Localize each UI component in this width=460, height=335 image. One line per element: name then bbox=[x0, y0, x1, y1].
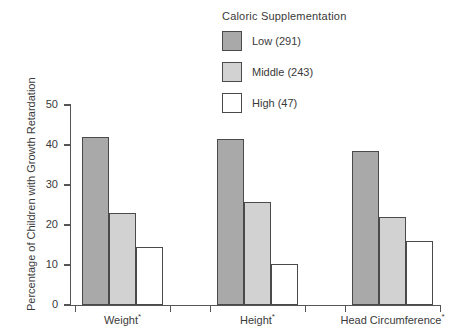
bar-chart: Percentage of Children with Growth Retar… bbox=[0, 0, 460, 335]
bar bbox=[379, 217, 406, 305]
y-tick-label: 30 bbox=[34, 179, 58, 190]
bar bbox=[352, 151, 379, 305]
legend-label: Middle (243) bbox=[252, 66, 313, 78]
y-tick bbox=[64, 144, 71, 145]
y-tick bbox=[64, 224, 71, 225]
legend-swatch bbox=[222, 31, 242, 51]
y-tick bbox=[64, 304, 71, 305]
x-tick bbox=[170, 305, 171, 312]
bar bbox=[217, 139, 244, 305]
legend-title: Caloric Supplementation bbox=[222, 10, 346, 22]
y-tick-label: 20 bbox=[34, 219, 58, 230]
x-tick bbox=[440, 305, 441, 312]
bar bbox=[406, 241, 433, 305]
legend-swatch bbox=[222, 93, 242, 113]
x-tick bbox=[75, 305, 76, 312]
y-tick-label: 40 bbox=[34, 139, 58, 150]
legend: Caloric Supplementation Low (291)Middle … bbox=[222, 10, 346, 123]
y-tick-label: 10 bbox=[34, 259, 58, 270]
y-tick bbox=[64, 264, 71, 265]
y-tick-label: 50 bbox=[34, 99, 58, 110]
legend-label: High (47) bbox=[252, 97, 297, 109]
legend-rows: Low (291)Middle (243)High (47) bbox=[222, 30, 346, 114]
legend-label: Low (291) bbox=[252, 35, 301, 47]
legend-item: Middle (243) bbox=[222, 61, 346, 83]
x-tick bbox=[345, 305, 346, 312]
y-tick bbox=[64, 184, 71, 185]
bar bbox=[271, 264, 298, 305]
x-tick bbox=[305, 305, 306, 312]
y-tick-label: 0 bbox=[34, 299, 58, 310]
x-tick bbox=[210, 305, 211, 312]
y-axis-label: Percentage of Children with Growth Retar… bbox=[25, 77, 37, 311]
legend-item: Low (291) bbox=[222, 30, 346, 52]
y-axis-line bbox=[70, 105, 71, 305]
legend-swatch bbox=[222, 62, 242, 82]
y-axis-label-container: Percentage of Children with Growth Retar… bbox=[21, 79, 39, 311]
y-tick bbox=[64, 104, 71, 105]
legend-item: High (47) bbox=[222, 92, 346, 114]
bar bbox=[82, 137, 109, 305]
bar bbox=[136, 247, 163, 305]
bar bbox=[244, 202, 271, 305]
x-axis-label: Head Circumference* bbox=[313, 312, 460, 326]
bar bbox=[109, 213, 136, 305]
